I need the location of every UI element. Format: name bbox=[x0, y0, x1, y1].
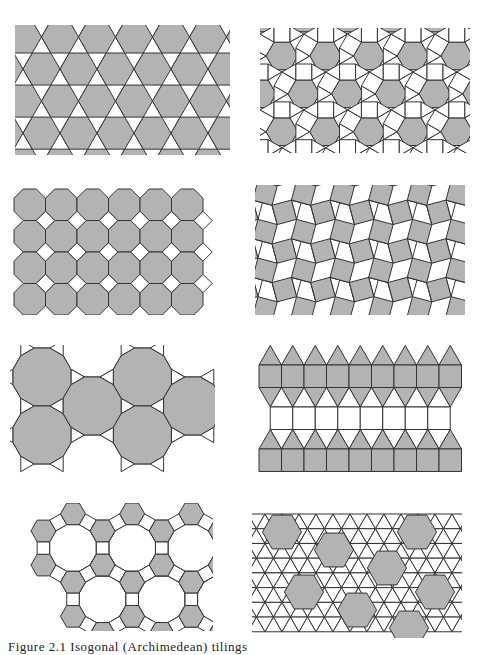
tiling-trihexagonal-drawing bbox=[15, 25, 230, 155]
tiling-truncated-square-drawing bbox=[10, 185, 215, 315]
tiling-snub-hexagonal-drawing bbox=[252, 510, 462, 638]
tiling-rhombitrihexagonal bbox=[260, 28, 470, 153]
figure-caption: Figure 2.1 Isogonal (Archimedean) tiling… bbox=[8, 639, 248, 655]
tiling-truncated-square bbox=[10, 185, 215, 315]
tiling-truncated-trihexagonal-drawing bbox=[8, 503, 213, 631]
tiling-elongated-triangular-drawing bbox=[253, 345, 463, 473]
tiling-snub-hexagonal bbox=[252, 510, 462, 638]
tiling-rhombitrihexagonal-drawing bbox=[260, 28, 470, 153]
tiling-truncated-trihexagonal bbox=[8, 503, 213, 631]
tiling-elongated-triangular bbox=[253, 345, 463, 473]
tiling-truncated-hexagonal-drawing bbox=[10, 345, 215, 475]
tiling-snub-square-drawing bbox=[255, 185, 465, 315]
tiling-truncated-hexagonal bbox=[10, 345, 215, 475]
tiling-trihexagonal bbox=[15, 25, 230, 155]
tiling-snub-square bbox=[255, 185, 465, 315]
